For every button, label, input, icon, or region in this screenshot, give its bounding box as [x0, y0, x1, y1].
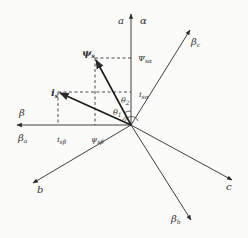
c-axis [131, 125, 232, 180]
beta-b-label: βb [170, 213, 181, 225]
i-s-beta-label: isβ [57, 135, 67, 146]
theta2-label: θ2 [121, 96, 130, 106]
beta-a-label: βa [17, 132, 28, 144]
alpha-axis-label-alpha: α [140, 15, 147, 26]
c-axis-label: c [226, 181, 232, 192]
vector-diagram: a α βc ψs Ψsα is isα θ2 θ1 β βa isβ ψsβ … [0, 0, 248, 238]
theta2-arc-icon [124, 111, 131, 113]
psi-s-beta-label: ψsβ [91, 135, 104, 146]
psi-s-alpha-label: Ψsα [138, 54, 152, 64]
beta-c-label: βc [190, 36, 201, 48]
beta-b-axis [131, 125, 191, 220]
alpha-axis-label-a: a [118, 15, 124, 26]
beta-axis-label: β [18, 107, 25, 118]
psi-s-label: ψs [82, 47, 95, 59]
theta1-label: θ1 [113, 108, 122, 118]
beta-c-axis [131, 30, 190, 125]
b-axis [33, 125, 131, 183]
i-s-alpha-label: isα [139, 90, 149, 100]
i-s-label: is [51, 87, 59, 99]
b-axis-label: b [37, 184, 43, 195]
